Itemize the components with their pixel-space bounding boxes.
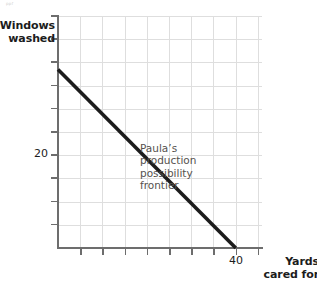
y-axis-title-line2: washed [0,32,55,45]
y-axis-title-line1: Windows [0,19,55,32]
frontier-annotation-line4: frontier [140,179,196,191]
y-axis-tick-label-20: 20 [14,147,48,160]
y-axis-title: Windows washed [0,19,55,45]
x-axis-title: Yards cared for [263,255,317,281]
x-axis-title-line2: cared for [263,268,317,281]
ppf-figure: ppf [0,0,317,289]
frontier-annotation-line1: Paula’s [140,142,196,154]
frontier-annotation: Paula’s production possibility frontier [140,142,196,192]
x-axis-title-line1: Yards [263,255,317,268]
x-axis-tick-label-40: 40 [219,254,253,267]
frontier-annotation-line3: possibility [140,167,196,179]
frontier-annotation-line2: production [140,154,196,166]
